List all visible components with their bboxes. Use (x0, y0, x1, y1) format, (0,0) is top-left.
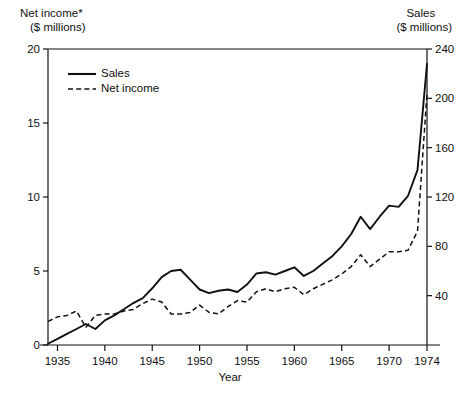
axis-lines (40, 49, 440, 345)
left-tick-label-5: 5 (10, 265, 40, 277)
series-lines (48, 64, 427, 344)
x-tick-label-1974: 1974 (405, 355, 449, 367)
x-tick-label-1940: 1940 (83, 355, 127, 367)
legend-marks (68, 74, 96, 89)
x-tick-label-1955: 1955 (225, 355, 269, 367)
right-tick-label-120: 120 (435, 191, 460, 203)
left-tick-label-20: 20 (10, 43, 40, 55)
legend-label-sales: Sales (101, 67, 130, 80)
x-tick-label-1945: 1945 (130, 355, 174, 367)
x-tick-label-1935: 1935 (35, 355, 79, 367)
left-tick-label-15: 15 (10, 117, 40, 129)
right-tick-label-240: 240 (435, 43, 460, 55)
left-tick-label-10: 10 (10, 191, 40, 203)
x-tick-label-1960: 1960 (272, 355, 316, 367)
left-tick-label-0: 0 (10, 339, 40, 351)
right-tick-label-200: 200 (435, 92, 460, 104)
x-tick-label-1950: 1950 (178, 355, 222, 367)
chart-figure: Net income*($ millions) Sales($ millions… (0, 0, 460, 393)
series-line-sales (48, 64, 427, 344)
right-tick-label-160: 160 (435, 142, 460, 154)
plot-area (0, 0, 460, 393)
right-tick-label-80: 80 (435, 240, 460, 252)
legend-label-net-income: Net income (101, 82, 159, 95)
x-axis-title: Year (0, 371, 460, 383)
x-tick-label-1965: 1965 (320, 355, 364, 367)
right-tick-label-40: 40 (435, 290, 460, 302)
